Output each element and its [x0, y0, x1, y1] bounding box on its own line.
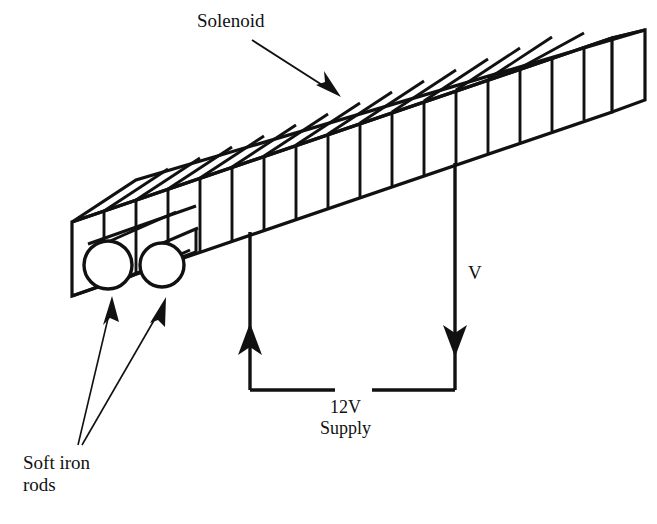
solenoid-top-face	[72, 30, 645, 222]
iron-rod-cross-sections	[84, 241, 184, 289]
rods-line-2: rods	[23, 474, 56, 495]
circuit-wiring	[250, 163, 455, 390]
leader-iron-rods	[78, 296, 166, 445]
solenoid-right-end-face	[612, 30, 645, 112]
label-supply: 12VSupply	[320, 397, 371, 439]
solenoid-diagram: Solenoid V 12VSupply Soft ironrods	[0, 0, 657, 524]
rods-line-1: Soft iron	[23, 452, 90, 473]
iron-rod-1	[84, 241, 132, 289]
current-direction-arrows	[238, 323, 467, 357]
label-voltage: V	[468, 262, 482, 284]
label-iron-rods: Soft ironrods	[23, 452, 90, 497]
supply-voltage-text: 12V	[330, 397, 361, 417]
leader-solenoid	[252, 40, 341, 97]
label-solenoid: Solenoid	[197, 10, 265, 32]
supply-word-text: Supply	[320, 418, 371, 438]
diagram-canvas	[0, 0, 657, 524]
iron-rod-2	[140, 243, 184, 287]
